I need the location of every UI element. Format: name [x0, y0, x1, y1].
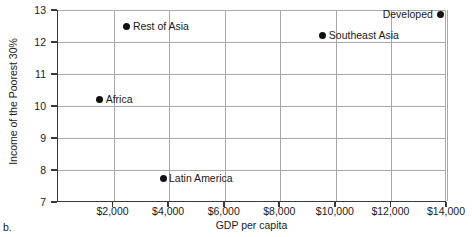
data-point-label-africa: Africa — [106, 94, 133, 105]
x-tick-label-4000: $4,000 — [138, 206, 198, 217]
data-point-label-rest-of-asia: Rest of Asia — [133, 21, 189, 32]
y-tick-label-8: 8 — [0, 165, 46, 176]
y-tick-label-7: 7 — [0, 197, 46, 208]
x-tick-label-12000: $12,000 — [360, 206, 420, 217]
x-axis-title: GDP per capita — [57, 220, 446, 231]
y-tick-label-12: 12 — [0, 37, 46, 48]
data-point-southeast-asia — [319, 32, 326, 39]
x-tick-label-8000: $8,000 — [249, 206, 309, 217]
data-point-africa — [96, 96, 103, 103]
data-point-label-southeast-asia: Southeast Asia — [329, 30, 399, 41]
panel-caption: b. — [3, 222, 12, 233]
gridline-x-14000 — [447, 10, 448, 201]
x-tick-label-6000: $6,000 — [194, 206, 254, 217]
scatter-chart-figure: Income of the Poorest 30% 78910111213 Af… — [0, 0, 472, 237]
gridline-y-9 — [58, 138, 446, 139]
y-tick-label-9: 9 — [0, 133, 46, 144]
data-point-developed — [437, 11, 444, 18]
x-tick-label-2000: $2,000 — [83, 206, 143, 217]
data-point-rest-of-asia — [123, 23, 130, 30]
gridline-x-2000 — [114, 10, 115, 201]
y-tick-label-10: 10 — [0, 101, 46, 112]
data-point-label-latin-america: Latin America — [169, 173, 233, 184]
x-tick-label-10000: $10,000 — [305, 206, 365, 217]
gridline-y-11 — [58, 74, 446, 75]
plot-area: AfricaRest of AsiaLatin AmericaSoutheast… — [57, 10, 446, 202]
gridline-y-10 — [58, 106, 446, 107]
data-point-label-developed: Developed — [383, 9, 433, 20]
gridline-y-8 — [58, 170, 446, 171]
gridline-x-8000 — [280, 10, 281, 201]
y-tick-label-11: 11 — [0, 69, 46, 80]
y-tick-label-13: 13 — [0, 5, 46, 16]
data-point-latin-america — [160, 175, 167, 182]
x-tick-label-14000: $14,000 — [416, 206, 472, 217]
gridline-y-12 — [58, 42, 446, 43]
